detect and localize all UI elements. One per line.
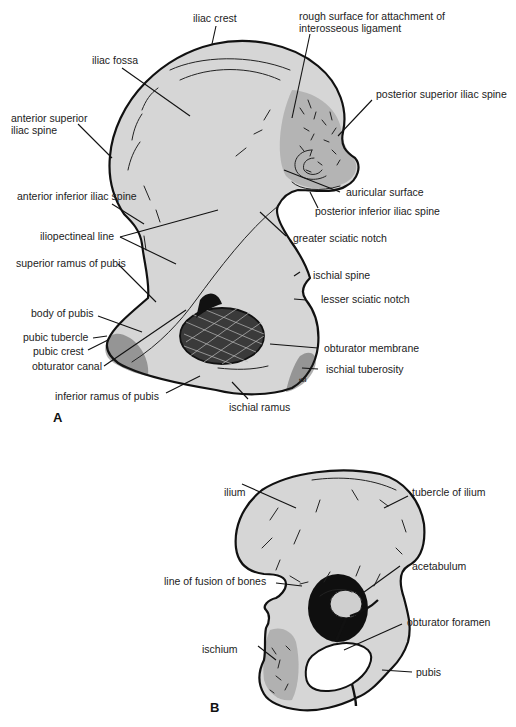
label-acetabulum: acetabulum	[412, 560, 467, 572]
label-pubic-tubercle: pubic tubercle	[23, 331, 89, 343]
label-body-of-pubis: body of pubis	[31, 307, 93, 319]
label-greater-sciatic-notch: greater sciatic notch	[293, 232, 387, 244]
label-iliac-crest: iliac crest	[193, 12, 237, 24]
label-posterior-inferior-iliac-spine: posterior inferior iliac spine	[315, 205, 440, 217]
panel-label-a: A	[53, 410, 63, 425]
label-ischial-tuberosity: ischial tuberosity	[326, 363, 404, 375]
label-anterior-superior-iliac-spine-1: anterior superior	[11, 112, 88, 124]
figure-a-medial-view: iliac crest rough surface for attachment…	[11, 10, 507, 425]
label-iliac-fossa: iliac fossa	[92, 54, 138, 66]
label-obturator-membrane: obturator membrane	[324, 342, 419, 354]
label-anterior-inferior-iliac-spine: anterior inferior iliac spine	[17, 190, 137, 202]
label-ilium: ilium	[224, 486, 246, 498]
label-lesser-sciatic-notch: lesser sciatic notch	[321, 293, 410, 305]
label-obturator-foramen: obturator foramen	[407, 616, 491, 628]
label-superior-ramus-of-pubis: superior ramus of pubis	[16, 257, 126, 269]
figure-b-lateral-view: ilium tubercle of ilium line of fusion o…	[164, 471, 491, 715]
label-ischium: ischium	[202, 643, 238, 655]
label-pubic-crest: pubic crest	[33, 345, 84, 357]
label-obturator-canal: obturator canal	[32, 360, 102, 372]
label-line-of-fusion-of-bones: line of fusion of bones	[164, 575, 266, 587]
artist-mark: tbl	[299, 377, 307, 383]
label-rough-surface-2: interosseous ligament	[299, 22, 401, 34]
hip-bone-diagram: iliac crest rough surface for attachment…	[0, 0, 516, 727]
ischium-texture	[263, 629, 298, 701]
label-iliopectineal-line: iliopectineal line	[40, 230, 114, 242]
panel-label-b: B	[210, 700, 219, 715]
label-auricular-surface: auricular surface	[346, 186, 424, 198]
label-pubis: pubis	[416, 666, 441, 678]
label-posterior-superior-iliac-spine: posterior superior iliac spine	[376, 88, 507, 100]
label-ischial-spine: ischial spine	[313, 269, 370, 281]
label-anterior-superior-iliac-spine-2: iliac spine	[11, 124, 57, 136]
label-rough-surface-1: rough surface for attachment of	[299, 10, 445, 22]
label-tubercle-of-ilium: tubercle of ilium	[412, 486, 486, 498]
label-ischial-ramus: ischial ramus	[229, 401, 290, 413]
obturator-membrane-shape	[180, 308, 264, 364]
label-inferior-ramus-of-pubis: inferior ramus of pubis	[55, 390, 159, 402]
